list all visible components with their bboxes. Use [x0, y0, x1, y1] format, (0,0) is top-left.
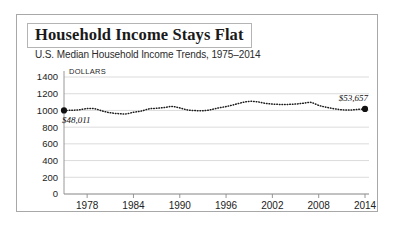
- y-tick-label: 800: [42, 122, 58, 133]
- y-axis-unit-label: DOLLARS: [69, 67, 106, 76]
- y-tick-label: 1200: [37, 88, 58, 99]
- plot-area: 0200400600800100012001400DOLLARS19781984…: [17, 63, 377, 211]
- y-tick-label: 400: [42, 155, 58, 166]
- page-title: Household Income Stays Flat: [35, 25, 244, 44]
- series-endpoint-marker: [362, 106, 368, 112]
- y-tick-label: 600: [42, 138, 58, 149]
- y-tick-label: 0: [53, 188, 58, 199]
- x-tick-label: 2014: [354, 200, 377, 211]
- income-series-line: [64, 101, 365, 114]
- y-tick-label: 1400: [37, 71, 58, 82]
- x-tick-label: 1978: [76, 200, 99, 211]
- x-tick-label: 2002: [261, 200, 284, 211]
- x-tick-label: 1990: [169, 200, 192, 211]
- x-tick-label: 1996: [215, 200, 238, 211]
- x-tick-label: 1984: [122, 200, 145, 211]
- chart-title-box: Household Income Stays Flat: [27, 23, 252, 48]
- series-endpoint-marker: [61, 107, 67, 113]
- chart-subtitle: U.S. Median Household Income Trends, 197…: [35, 49, 261, 60]
- chart-figure: Household Income Stays Flat U.S. Median …: [16, 14, 378, 212]
- y-tick-label: 1000: [37, 105, 58, 116]
- annotation-start-value: $48,011: [62, 115, 91, 125]
- line-chart: 0200400600800100012001400DOLLARS19781984…: [17, 63, 377, 211]
- annotation-end-value: $53,657: [339, 93, 369, 103]
- y-tick-label: 200: [42, 172, 58, 183]
- x-tick-label: 2008: [308, 200, 331, 211]
